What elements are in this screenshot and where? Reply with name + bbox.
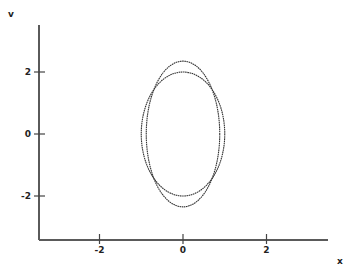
x-tick-label: 0 [180, 245, 186, 255]
x-tick-label: -2 [95, 245, 105, 255]
y-axis-label: v [8, 9, 14, 19]
x-axis-label: x [337, 256, 343, 266]
y-tick-label: -2 [21, 191, 31, 201]
axes [39, 25, 328, 240]
curves [141, 61, 225, 207]
chart-plot: -202-202 x v [0, 0, 347, 270]
y-tick-label: 2 [25, 67, 31, 77]
y-tick-label: 0 [25, 129, 31, 139]
x-tick-label: 2 [263, 245, 269, 255]
ellipse-2-curve [146, 61, 219, 207]
